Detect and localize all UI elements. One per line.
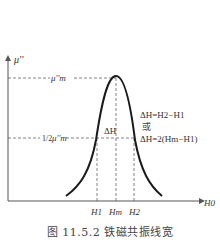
half-frac: 1/2 — [42, 134, 52, 143]
formula-1: ΔH=H2−H1 — [140, 110, 184, 120]
half-label: μ''m — [51, 133, 67, 143]
delta-h-label: ΔH — [104, 126, 117, 136]
max-label: μ''m — [50, 73, 66, 83]
resonance-diagram: μ'' H0 μ''m 1/2 μ''m ΔH H1 Hm H2 ΔH=H2−H… — [0, 0, 220, 245]
tick-h1: H1 — [90, 207, 102, 217]
tick-hm: Hm — [108, 207, 122, 217]
formula-or: 或 — [142, 121, 151, 132]
x-axis-label: H0 — [203, 198, 215, 208]
tick-h2: H2 — [128, 207, 140, 217]
figure-caption: 图 11.5.2 铁磁共振线宽 — [0, 223, 220, 239]
y-axis-label: μ'' — [13, 54, 24, 65]
formula-2: ΔH=2(Hm−H1) — [140, 134, 197, 144]
